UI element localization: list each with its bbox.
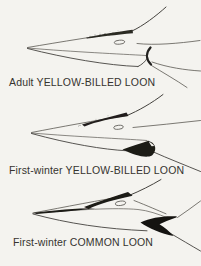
mouth-line xyxy=(33,209,168,218)
rear-cheek-line xyxy=(178,201,201,218)
culmen-ridge-dark-wedge xyxy=(84,192,133,209)
first-winter-common-loon-label: First-winter COMMON LOON xyxy=(13,237,153,248)
gape-dark-wedge xyxy=(141,216,177,236)
bill-bottom-line xyxy=(33,214,147,231)
first-winter-common-loon-illustration xyxy=(0,0,201,266)
nostril xyxy=(115,201,126,206)
adult-yellow-billed-loon-label: Adult YELLOW-BILLED LOON xyxy=(9,77,155,88)
field-guide-plate: Adult YELLOW-BILLED LOON First-winter YE… xyxy=(0,0,201,266)
throat-line xyxy=(169,233,201,252)
first-winter-yellow-billed-loon-label: First-winter YELLOW-BILLED LOON xyxy=(9,165,184,176)
forehead-line xyxy=(129,180,161,196)
